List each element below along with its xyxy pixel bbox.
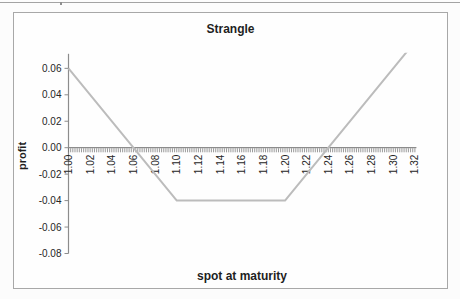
y-tick-label: 0.06 (42, 63, 62, 74)
page-top-rule (0, 2, 460, 3)
page-top-rule-tick (60, 2, 62, 5)
x-axis-labels: 1.001.021.041.061.081.101.121.141.161.18… (63, 154, 420, 174)
y-tick-label: 0.04 (42, 89, 62, 100)
x-tick-label: 1.10 (171, 154, 182, 174)
x-tick-label: 1.02 (85, 154, 96, 174)
x-tick-label: 1.08 (150, 154, 161, 174)
x-tick-label: 1.18 (258, 154, 269, 174)
series-line (69, 42, 415, 201)
x-tick-label: 1.00 (63, 154, 74, 174)
y-tick-label: 0.02 (42, 116, 62, 127)
chart-svg: 0.060.040.020.00-0.02-0.04-0.06-0.081.00… (14, 13, 447, 288)
x-tick-label: 1.28 (366, 154, 377, 174)
y-tick-label: -0.02 (39, 169, 62, 180)
x-tick-label: 1.04 (106, 154, 117, 174)
x-axis-title: spot at maturity (197, 269, 287, 283)
x-axis-minor-ticks (69, 148, 415, 152)
page: { "chart_data": { "type": "line", "title… (0, 0, 460, 299)
y-axis-title: profit (16, 142, 28, 170)
x-tick-label: 1.20 (280, 154, 291, 174)
x-tick-label: 1.30 (388, 154, 399, 174)
x-tick-label: 1.14 (215, 154, 226, 174)
y-tick-label: 0.00 (42, 142, 62, 153)
x-tick-label: 1.16 (236, 154, 247, 174)
y-tick-label: -0.04 (39, 195, 62, 206)
chart-frame: Strangle 0.060.040.020.00-0.02-0.04-0.06… (13, 12, 448, 289)
x-tick-label: 1.12 (193, 154, 204, 174)
x-tick-label: 1.32 (409, 154, 420, 174)
x-tick-label: 1.06 (128, 154, 139, 174)
x-tick-label: 1.22 (301, 154, 312, 174)
x-tick-label: 1.26 (344, 154, 355, 174)
y-tick-label: -0.08 (39, 248, 62, 259)
y-tick-label: -0.06 (39, 222, 62, 233)
x-tick-label: 1.24 (323, 154, 334, 174)
